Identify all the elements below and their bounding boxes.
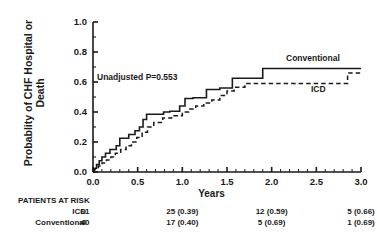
x-tick-label: 2.0 <box>257 176 287 187</box>
y-tick-label: 0.6 <box>61 76 87 87</box>
risk-cell: 61 <box>57 207 113 216</box>
x-tick-label: 0.0 <box>78 176 108 187</box>
risk-cell: 5 (0.69) <box>244 218 300 227</box>
risk-cell: 12 (0.59) <box>244 207 300 216</box>
risk-table-row: ICD6125 (0.39)12 (0.59)5 (0.66) <box>0 207 377 218</box>
axes <box>93 22 361 172</box>
x-tick-label: 2.5 <box>301 176 331 187</box>
y-tick-label: 0.2 <box>61 136 87 147</box>
patients-at-risk-title: PATIENTS AT RISK <box>18 196 90 205</box>
risk-cell: 25 (0.39) <box>154 207 210 216</box>
risk-cell: 40 <box>57 218 113 227</box>
x-tick-label: 0.5 <box>123 176 153 187</box>
y-tick-label: 0.8 <box>61 46 87 57</box>
risk-table-row: Conventional4017 (0.40)5 (0.69)1 (0.69) <box>0 218 377 229</box>
series-label-icd: ICD <box>311 84 326 94</box>
x-tick-label: 1.5 <box>212 176 242 187</box>
pvalue-annotation: Unadjusted P=0.553 <box>97 72 178 82</box>
x-tick-label: 1.0 <box>167 176 197 187</box>
y-tick-label: 1.0 <box>61 16 87 27</box>
y-tick-label: 0.4 <box>61 106 87 117</box>
risk-cell: 17 (0.40) <box>154 218 210 227</box>
kaplan-meier-figure: Probablity of CHF Hospital or Death 0.00… <box>0 0 377 238</box>
series-label-conventional: Conventional <box>286 53 340 63</box>
risk-cell: 5 (0.66) <box>333 207 377 216</box>
risk-cell: 1 (0.69) <box>333 218 377 227</box>
x-axis-title-text: Years <box>198 188 225 199</box>
x-tick-label: 3.0 <box>346 176 376 187</box>
